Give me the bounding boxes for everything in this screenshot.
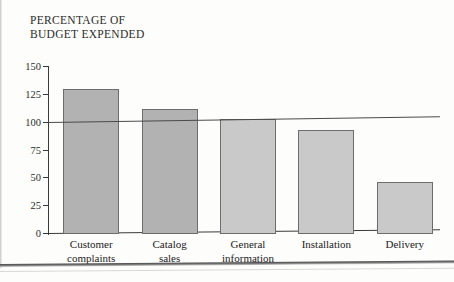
bar-5 xyxy=(377,182,433,234)
y-tick-label: 25 xyxy=(31,200,42,211)
y-tick-mark xyxy=(43,150,49,151)
y-tick-125: 125 xyxy=(48,94,49,95)
x-category-label-1: Customer complaints xyxy=(52,238,130,265)
y-tick-50: 50 xyxy=(48,177,49,178)
y-tick-mark xyxy=(43,94,49,95)
bar-2 xyxy=(142,109,198,234)
y-tick-150: 150 xyxy=(48,66,49,67)
y-tick-label: 125 xyxy=(25,88,41,99)
y-tick-label: 150 xyxy=(25,61,41,72)
y-tick-label: 100 xyxy=(25,116,41,127)
y-axis-line xyxy=(48,66,49,235)
y-tick-mark xyxy=(43,66,49,67)
y-tick-label: 50 xyxy=(31,172,42,183)
x-category-label-4: Installation xyxy=(287,238,365,252)
bar-3 xyxy=(220,119,276,234)
plot-area: 0255075100125150 xyxy=(48,64,440,235)
chart-page: PERCENTAGE OF BUDGET EXPENDED 0255075100… xyxy=(0,0,454,282)
y-tick-mark xyxy=(43,205,49,206)
y-tick-0: 0 xyxy=(48,233,49,234)
y-tick-label: 75 xyxy=(31,144,42,155)
y-tick-label: 0 xyxy=(36,228,41,239)
scan-edge-left xyxy=(0,0,2,268)
y-tick-mark xyxy=(43,233,49,234)
y-tick-mark xyxy=(43,177,49,178)
x-category-label-2: Catalog sales xyxy=(130,238,208,265)
bar-4 xyxy=(298,130,354,234)
x-category-label-5: Delivery xyxy=(366,238,444,252)
bar-1 xyxy=(63,89,119,234)
y-tick-75: 75 xyxy=(48,150,49,151)
scan-edge-bottom-secondary xyxy=(0,268,454,272)
y-tick-25: 25 xyxy=(48,205,49,206)
chart-title: PERCENTAGE OF BUDGET EXPENDED xyxy=(30,13,145,41)
